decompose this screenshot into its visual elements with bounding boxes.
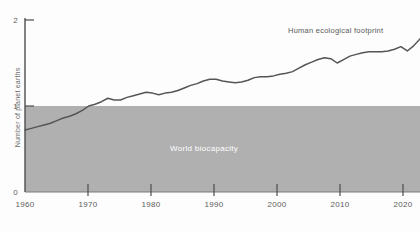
band-annotation-biocapacity: World biocapacity — [170, 144, 238, 153]
y-tick-label-1: 1 — [4, 102, 18, 111]
x-tick-label-1990: 1990 — [205, 200, 224, 209]
ecological-footprint-chart: Number of planet earths 2 1 0 1960 1970 … — [0, 0, 420, 232]
x-tick-label-1960: 1960 — [16, 200, 35, 209]
x-tick-label-1970: 1970 — [79, 200, 98, 209]
y-tick-label-0: 0 — [4, 188, 18, 197]
series-annotation-footprint: Human ecological footprint — [288, 26, 383, 35]
y-tick-label-2: 2 — [4, 16, 18, 25]
x-tick-label-2020: 2020 — [394, 200, 413, 209]
x-tick-label-2000: 2000 — [268, 200, 287, 209]
x-tick-label-2010: 2010 — [331, 200, 350, 209]
x-tick-label-1980: 1980 — [142, 200, 161, 209]
